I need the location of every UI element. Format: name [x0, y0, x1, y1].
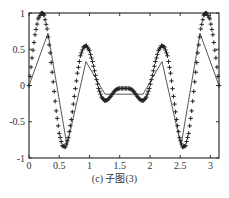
line-chart: 00.511.522.53-1-0.500.51: [0, 0, 229, 198]
y-tick-label: -0.5: [9, 116, 25, 127]
axis-ticks: 00.511.522.53-1-0.500.51: [9, 8, 219, 172]
axes-box: [29, 13, 219, 158]
y-tick-label: 0: [20, 80, 25, 91]
plot-frame: [29, 13, 219, 158]
figure-caption: (c) 子图(3): [0, 170, 229, 185]
y-tick-label: -1: [17, 153, 25, 164]
y-tick-label: 1: [20, 8, 25, 19]
y-tick-label: 0.5: [13, 44, 26, 55]
